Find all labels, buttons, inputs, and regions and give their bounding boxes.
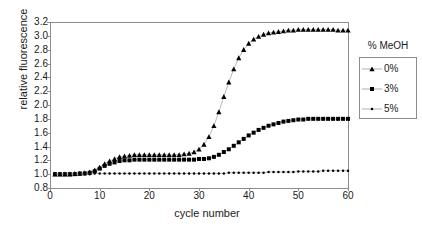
data-point-square xyxy=(341,117,345,121)
data-point-square xyxy=(118,159,122,163)
data-point-dot xyxy=(133,172,136,175)
data-point-square xyxy=(252,131,256,135)
data-point-dot xyxy=(203,172,206,175)
data-point-dot xyxy=(138,172,141,175)
data-point-dot xyxy=(123,172,126,175)
data-point-dot xyxy=(64,173,67,176)
data-point-square xyxy=(321,117,325,121)
data-point-square xyxy=(281,120,285,124)
data-point-dot xyxy=(272,171,275,174)
data-point-dot xyxy=(297,170,300,173)
data-point-dot xyxy=(302,170,305,173)
data-point-square xyxy=(232,144,236,148)
data-point-dot xyxy=(143,172,146,175)
data-point-dot xyxy=(342,169,345,172)
data-point-dot xyxy=(257,172,260,175)
data-point-square xyxy=(192,158,196,162)
data-point-dot xyxy=(118,172,121,175)
data-point-dot xyxy=(228,172,231,175)
data-point-dot xyxy=(59,173,62,176)
series-0pct xyxy=(52,27,350,176)
legend-item-3pct[interactable]: 3% xyxy=(360,79,418,99)
data-point-square xyxy=(172,158,176,162)
data-point-triangle xyxy=(216,109,221,114)
data-point-square xyxy=(336,117,340,121)
data-point-square xyxy=(177,158,181,162)
data-point-square xyxy=(272,122,276,126)
data-point-square xyxy=(108,162,112,166)
data-point-square xyxy=(123,158,127,162)
plot-frame xyxy=(51,23,349,189)
data-point-square xyxy=(132,158,136,162)
data-point-triangle xyxy=(256,34,261,39)
data-point-dot xyxy=(332,169,335,172)
data-point-dot xyxy=(237,172,240,175)
data-point-dot xyxy=(88,173,91,176)
legend-box: 0%3%5% xyxy=(359,57,417,119)
data-point-square xyxy=(152,158,156,162)
data-point-dot xyxy=(307,170,310,173)
legend-title: % MeOH xyxy=(357,40,419,51)
data-point-dot xyxy=(277,171,280,174)
data-point-square xyxy=(276,121,280,125)
data-point-square xyxy=(247,133,251,137)
data-point-square xyxy=(311,117,315,121)
data-point-square xyxy=(286,119,290,123)
data-point-dot xyxy=(322,169,325,172)
dot-marker xyxy=(360,102,384,116)
data-point-triangle xyxy=(211,123,216,128)
data-point-dot xyxy=(183,172,186,175)
data-point-dot xyxy=(113,172,116,175)
data-point-dot xyxy=(242,172,245,175)
data-point-square xyxy=(137,158,141,162)
data-point-dot xyxy=(84,173,87,176)
data-point-dot xyxy=(93,172,96,175)
data-point-dot xyxy=(168,172,171,175)
data-point-square xyxy=(306,117,310,121)
data-point-dot xyxy=(198,172,201,175)
data-point-dot xyxy=(247,172,250,175)
data-point-square xyxy=(197,157,201,161)
data-point-dot xyxy=(317,170,320,173)
data-point-square xyxy=(262,126,266,130)
data-point-dot xyxy=(223,172,226,175)
data-point-square xyxy=(217,153,221,157)
data-point-square xyxy=(242,137,246,141)
data-point-dot xyxy=(312,170,315,173)
data-point-square xyxy=(207,156,211,160)
data-point-triangle xyxy=(236,55,241,60)
data-point-dot xyxy=(103,172,106,175)
data-point-dot xyxy=(128,172,131,175)
data-point-dot xyxy=(158,172,161,175)
data-point-dot xyxy=(252,172,255,175)
data-point-dot xyxy=(98,172,101,175)
data-point-dot xyxy=(108,172,111,175)
data-point-dot xyxy=(148,172,151,175)
legend-item-5pct[interactable]: 5% xyxy=(360,99,418,119)
legend-label: 5% xyxy=(384,104,398,114)
data-point-dot xyxy=(173,172,176,175)
data-point-square xyxy=(113,160,117,164)
data-point-dot xyxy=(74,173,77,176)
data-point-dot xyxy=(267,171,270,174)
data-point-square xyxy=(346,117,350,121)
data-point-square xyxy=(103,164,107,168)
data-point-triangle xyxy=(201,142,206,147)
data-point-triangle xyxy=(191,149,196,154)
data-point-square xyxy=(127,158,131,162)
data-point-dot xyxy=(347,169,350,172)
data-point-dot xyxy=(153,172,156,175)
data-point-square xyxy=(257,128,261,132)
data-point-square xyxy=(212,155,216,159)
data-point-dot xyxy=(292,171,295,174)
data-point-square xyxy=(267,124,271,128)
data-point-square xyxy=(162,158,166,162)
legend-item-0pct[interactable]: 0% xyxy=(360,59,418,79)
data-point-dot xyxy=(213,172,216,175)
data-point-dot xyxy=(337,169,340,172)
series-line xyxy=(55,30,348,175)
data-point-square xyxy=(370,87,374,91)
data-point-dot xyxy=(79,173,82,176)
data-point-square xyxy=(222,150,226,154)
data-point-triangle xyxy=(231,66,236,71)
